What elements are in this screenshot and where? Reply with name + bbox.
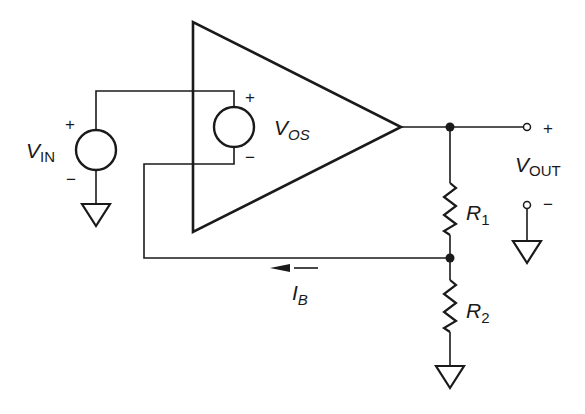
r1-label-sub: 1 <box>481 211 489 228</box>
vout-label: VOUT <box>515 153 561 179</box>
resistor-r2 <box>444 280 456 332</box>
vout-label-sub: OUT <box>529 162 561 179</box>
r2-label-sub: 2 <box>481 309 489 326</box>
ground-icon-vout <box>513 241 541 263</box>
circuit-diagram: + − VIN + − VOS R1 R2 IB + − VOUT <box>0 0 585 414</box>
ib-label-sub: B <box>298 291 308 308</box>
wire-vos-to-feedback <box>144 147 450 258</box>
vin-minus-sign: − <box>66 170 76 189</box>
vout-plus-sign: + <box>543 119 553 138</box>
vout-minus-terminal <box>524 202 531 209</box>
ground-icon-vin <box>82 204 110 226</box>
vout-plus-terminal <box>524 124 531 131</box>
r1-label-main: R <box>466 201 481 224</box>
vos-minus-sign: − <box>245 148 255 167</box>
vos-label-sub: OS <box>288 126 310 143</box>
vin-source-symbol <box>76 130 116 170</box>
r2-label: R2 <box>466 299 490 326</box>
r1-label: R1 <box>466 201 490 228</box>
ib-label: IB <box>292 281 308 308</box>
bias-current-arrow-icon <box>270 264 290 272</box>
resistor-r1 <box>444 183 456 235</box>
vin-label-sub: IN <box>40 148 55 165</box>
vos-label: VOS <box>274 116 310 143</box>
vin-plus-sign: + <box>65 115 75 134</box>
r2-label-main: R <box>466 299 481 322</box>
vos-source-symbol <box>214 107 254 147</box>
feedback-node <box>446 254 455 263</box>
vout-minus-sign: − <box>543 195 553 214</box>
vos-plus-sign: + <box>245 88 255 107</box>
vin-label: VIN <box>26 139 55 165</box>
ground-icon-r2 <box>436 366 464 388</box>
